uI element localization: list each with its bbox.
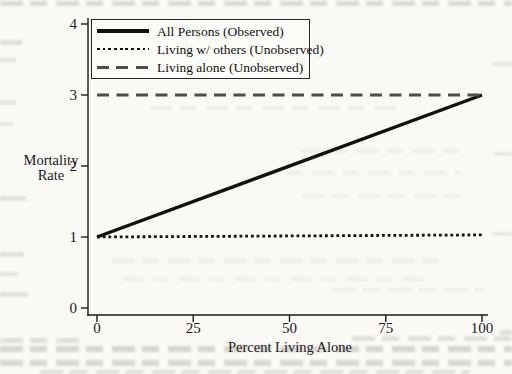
y-tick-label: 3 [70, 87, 78, 103]
legend-item-living-alone: Living alone (Unobserved) [97, 58, 305, 76]
legend-label: Living w/ others (Unobserved) [157, 42, 324, 57]
dotted-line-sample [97, 48, 149, 51]
legend-label: Living alone (Unobserved) [157, 60, 303, 75]
y-axis-title: Mortality [24, 152, 80, 168]
x-tick-label: 50 [282, 320, 297, 336]
dashed-line-sample [97, 66, 149, 69]
x-axis-title: Percent Living Alone [228, 339, 352, 355]
x-tick-label: 75 [378, 320, 393, 336]
x-tick-label: 25 [186, 320, 201, 336]
x-tick-label: 0 [93, 320, 101, 336]
series-line-solid [97, 95, 482, 237]
scanned-book-page: 012340255075100Percent Living AloneMorta… [0, 0, 512, 374]
y-tick-label: 0 [70, 300, 78, 316]
solid-line-sample [97, 29, 149, 32]
y-tick-label: 1 [70, 229, 78, 245]
legend-item-living-w-others: Living w/ others (Unobserved) [97, 40, 305, 58]
chart-legend: All Persons (Observed) Living w/ others … [91, 19, 310, 79]
legend-item-all-persons: All Persons (Observed) [97, 22, 305, 40]
series-line-dotted [97, 235, 482, 237]
y-tick-label: 4 [70, 16, 78, 32]
legend-label: All Persons (Observed) [157, 24, 284, 39]
y-axis-title: Rate [38, 167, 65, 183]
x-tick-label: 100 [471, 320, 494, 336]
